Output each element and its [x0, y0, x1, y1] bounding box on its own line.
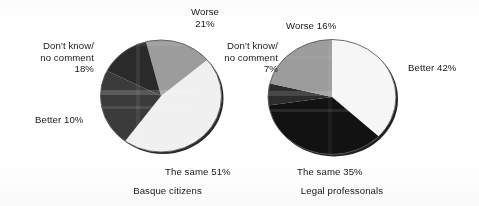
- left-label-worse-text: Worse: [191, 6, 219, 17]
- paper-grain-overlay: [0, 0, 479, 206]
- left-label-worse-value: 21%: [195, 18, 215, 29]
- right-label-worse-text: Worse 16%: [286, 20, 336, 31]
- right-label-better: Better 42%: [408, 62, 456, 74]
- right-pie-chart: [262, 34, 404, 164]
- left-label-dont-know-line1: Don't know/: [43, 40, 94, 51]
- left-label-worse: Worse21%: [178, 6, 232, 29]
- right-label-dont-know: Don't know/no comment7%: [196, 40, 278, 75]
- left-label-dont-know-line2: no comment: [40, 52, 94, 63]
- right-label-better-text: Better 42%: [408, 62, 456, 73]
- left-label-the-same: The same 51%: [165, 166, 231, 178]
- right-label-the-same-text: The same 35%: [297, 166, 363, 177]
- left-label-dont-know: Don't know/no comment18%: [2, 40, 94, 75]
- right-label-dont-know-line2: no comment: [224, 52, 278, 63]
- left-label-better: Better 10%: [35, 114, 83, 126]
- right-chart-caption-text: Legal professonals: [301, 185, 383, 196]
- right-label-dont-know-line1: Don't know/: [227, 40, 278, 51]
- pie-chart-figure: Worse21% Don't know/no comment18% Better…: [0, 0, 479, 206]
- right-chart-caption: Legal professonals: [282, 185, 402, 197]
- left-label-better-text: Better 10%: [35, 114, 83, 125]
- left-label-the-same-text: The same 51%: [165, 166, 231, 177]
- right-label-the-same: The same 35%: [297, 166, 363, 178]
- left-chart-caption-text: Basque citizens: [133, 185, 202, 196]
- right-label-dont-know-value: 7%: [264, 63, 278, 74]
- left-chart-caption: Basque citizens: [115, 185, 220, 197]
- left-label-dont-know-value: 18%: [74, 63, 94, 74]
- right-label-worse: Worse 16%: [286, 20, 336, 32]
